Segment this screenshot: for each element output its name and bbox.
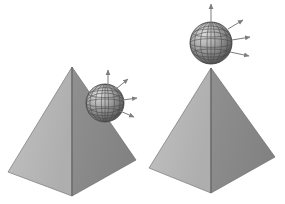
figure-canvas: [0, 0, 285, 204]
illustration-svg: [0, 0, 285, 204]
globe-left: [86, 84, 124, 122]
globe-right: [190, 22, 232, 64]
